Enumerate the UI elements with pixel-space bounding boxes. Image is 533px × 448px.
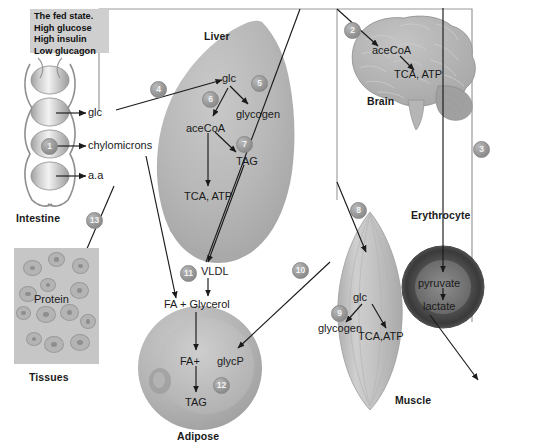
marker-12[interactable]: 12 [213, 377, 230, 394]
label-liver-glycogen: glycogen [236, 108, 280, 122]
label-fa-plus: FA+ [180, 355, 200, 369]
tissue-cell [23, 260, 42, 276]
label-liver-acecoa: aceCoA [186, 122, 225, 136]
arrow-muscle-glc-glycogen [346, 304, 362, 322]
marker-7[interactable]: 7 [236, 136, 253, 153]
label-glc-intestine: glc [88, 106, 102, 120]
arrow-to-glycp [238, 262, 330, 348]
label-intestine: Intestine [16, 212, 60, 225]
fed-state-callout: The fed state. High glucose High insulin… [30, 9, 109, 53]
tissue-cell [70, 282, 89, 299]
diagram-frame [99, 9, 472, 322]
tissue-cell [36, 306, 56, 323]
label-muscle-glycogen: glycogen [318, 322, 362, 336]
label-glycp: glycP [217, 355, 244, 369]
label-liver-tag: TAG [236, 155, 258, 169]
label-adipose: Adipose [177, 430, 219, 443]
tissue-cell [44, 336, 64, 353]
arrow-muscle-glc-tca [372, 304, 386, 328]
label-liver: Liver [204, 30, 230, 43]
tissue-cell [72, 258, 89, 274]
label-muscle-tca: TCA,ATP [358, 330, 404, 344]
fed-state-line-2: High glucose [34, 23, 109, 35]
label-liver-tca: TCA, ATP [184, 190, 232, 204]
arrow-liver-tag-vldl [208, 165, 244, 262]
marker-3[interactable]: 3 [473, 141, 490, 158]
marker-9[interactable]: 9 [331, 305, 348, 322]
marker-4[interactable]: 4 [150, 81, 167, 98]
label-chylomicrons: chylomicrons [88, 139, 152, 153]
label-protein: Protein [34, 293, 69, 307]
diagram-vector-layer [0, 0, 533, 448]
marker-5[interactable]: 5 [251, 75, 268, 92]
label-erythrocyte: Erythrocyte [411, 209, 470, 222]
marker-2[interactable]: 2 [344, 22, 361, 39]
label-brain: Brain [367, 95, 394, 108]
label-tissues: Tissues [29, 371, 69, 384]
label-adipose-tag: TAG [185, 396, 207, 410]
label-vldl: VLDL [201, 265, 229, 279]
tissue-cell [48, 252, 65, 267]
marker-1[interactable]: 1 [41, 138, 58, 155]
label-pyruvate: pyruvate [418, 277, 460, 291]
marker-8[interactable]: 8 [350, 202, 367, 219]
arrow-lactate-out [430, 315, 478, 380]
marker-13[interactable]: 13 [86, 212, 103, 229]
tissue-cell [16, 306, 31, 320]
marker-11[interactable]: 11 [180, 265, 197, 282]
marker-10[interactable]: 10 [292, 262, 309, 279]
arrow-group [56, 8, 478, 392]
arrow-chylomicrons-fa [146, 156, 176, 298]
label-aa: a.a [88, 169, 103, 183]
label-lactate: lactate [423, 300, 455, 314]
marker-6[interactable]: 6 [202, 91, 219, 108]
liver-organ [157, 21, 295, 263]
fed-state-metabolism-diagram: The fed state. High glucose High insulin… [0, 0, 533, 448]
tissue-cell [70, 334, 90, 351]
label-muscle: Muscle [395, 394, 431, 407]
label-muscle-glc: glc [353, 291, 367, 305]
label-brain-acecoa: aceCoA [372, 44, 411, 58]
intestine-organ [25, 58, 75, 206]
label-brain-tca: TCA, ATP [394, 68, 442, 82]
fed-state-line-1: The fed state. [34, 11, 109, 23]
tissue-cell [80, 314, 96, 329]
tissue-cell [40, 278, 56, 292]
arrow-liver-glc-glycogen [230, 86, 248, 104]
label-fa-glycerol: FA + Glycerol [164, 298, 230, 312]
tissue-cell [26, 332, 42, 346]
fed-state-line-4: Low glucagon [34, 46, 109, 58]
fed-state-line-3: High insulin [34, 34, 109, 46]
label-liver-glc: glc [222, 72, 236, 86]
